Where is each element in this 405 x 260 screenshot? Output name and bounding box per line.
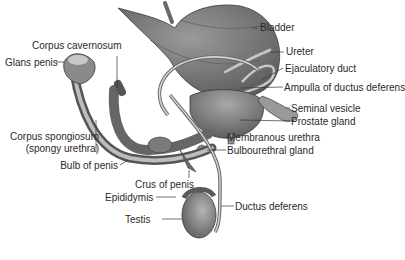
label-ureter: Ureter (286, 46, 314, 57)
label-epididymis: Epididymis (105, 192, 153, 203)
label-ampulla-of-ductus-deferens: Ampulla of ductus deferens (284, 82, 405, 93)
label-spongy-urethra: (spongy urethra) (0, 143, 99, 154)
label-corpus-spongiosum: Corpus spongiosum (0, 131, 99, 142)
label-crus-of-penis: Crus of penis (135, 179, 194, 190)
label-seminal-vesicle: Seminal vesicle (291, 103, 360, 114)
label-glans-penis: Glans penis (5, 57, 58, 68)
bulb-of-penis-shape (148, 137, 172, 153)
label-ejaculatory-duct: Ejaculatory duct (285, 63, 356, 74)
label-bulbourethral-gland: Bulbourethral gland (227, 145, 314, 156)
testis-shape (182, 192, 216, 238)
label-prostate-gland: Prostate gland (291, 116, 356, 127)
label-testis: Testis (125, 214, 151, 225)
label-bulb-of-penis: Bulb of penis (0, 160, 118, 171)
label-corpus-cavernosum: Corpus cavernosum (32, 40, 121, 51)
label-ductus-deferens: Ductus deferens (235, 201, 308, 212)
bladder-shape (118, 3, 280, 98)
label-bladder: Bladder (260, 22, 294, 33)
label-membranous-urethra: Membranous urethra (227, 132, 320, 143)
